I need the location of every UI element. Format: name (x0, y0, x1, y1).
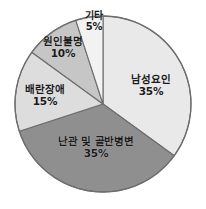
pie-label-male-factor: 남성요인 35% (120, 74, 182, 98)
pie-label-other-value: 5% (72, 21, 116, 32)
pie-label-unexplained-value: 10% (30, 48, 96, 60)
pie-label-male-factor-name: 남성요인 (120, 74, 182, 86)
pie-label-male-factor-value: 35% (120, 86, 182, 98)
pie-label-ovulatory-name: 배란장애 (14, 84, 76, 96)
pie-label-tubal-pelvic: 난관 및 골반병변 35% (44, 136, 148, 160)
pie-label-tubal-pelvic-value: 35% (44, 148, 148, 160)
pie-label-ovulatory: 배란장애 15% (14, 84, 76, 108)
pie-label-unexplained-name: 원인불명 (30, 36, 96, 48)
pie-label-other: 기타 5% (72, 10, 116, 32)
pie-chart: 남성요인 35% 난관 및 골반병변 35% 배란장애 15% 원인불명 10%… (0, 0, 206, 209)
pie-label-ovulatory-value: 15% (14, 96, 76, 108)
pie-label-unexplained: 원인불명 10% (30, 36, 96, 60)
pie-label-tubal-pelvic-name: 난관 및 골반병변 (44, 136, 148, 148)
pie-label-other-name: 기타 (72, 10, 116, 21)
